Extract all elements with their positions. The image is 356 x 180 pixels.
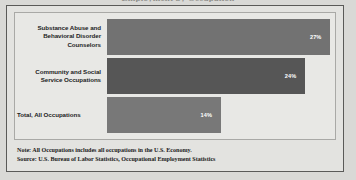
category-label-line: Community and Social <box>15 68 101 76</box>
bar-row: Total, All Occupations 14% <box>15 97 335 133</box>
cutoff-chart-title: Employment by Occupation <box>0 0 356 2</box>
category-label-total-all-occupations: Total, All Occupations <box>15 111 107 119</box>
bar-row: Community and Social Service Occupations… <box>15 58 335 94</box>
bar-value-label: 14% <box>201 112 213 118</box>
note-text: Note: All Occupations includes all occup… <box>17 146 335 155</box>
bar-community-social-service[interactable]: 24% <box>107 58 305 94</box>
bar-substance-abuse-counselors[interactable]: 27% <box>107 19 330 55</box>
bar-row: Substance Abuse and Behavioral Disorder … <box>15 19 335 55</box>
category-label-line: Behavioral Disorder <box>15 32 101 40</box>
plot-area: Substance Abuse and Behavioral Disorder … <box>14 12 336 140</box>
bar-track: 24% <box>107 58 335 94</box>
bar-track: 27% <box>107 19 335 55</box>
chart-footnotes: Note: All Occupations includes all occup… <box>17 146 335 163</box>
category-label-line: Service Occupations <box>15 76 101 84</box>
bar-value-label: 27% <box>310 34 322 40</box>
category-label-line: Total, All Occupations <box>17 111 107 119</box>
source-text: Source: U.S. Bureau of Labor Statistics,… <box>17 155 335 164</box>
bar-rows: Substance Abuse and Behavioral Disorder … <box>15 13 335 139</box>
chart-figure-frame: Substance Abuse and Behavioral Disorder … <box>6 5 344 172</box>
category-label-substance-abuse-counselors: Substance Abuse and Behavioral Disorder … <box>15 24 107 49</box>
category-label-community-social-service: Community and Social Service Occupations <box>15 68 107 85</box>
bar-track: 14% <box>107 97 335 133</box>
bar-value-label: 24% <box>285 73 297 79</box>
category-label-line: Counselors <box>15 41 101 49</box>
bar-total-all-occupations[interactable]: 14% <box>107 97 221 133</box>
category-label-line: Substance Abuse and <box>15 24 101 32</box>
